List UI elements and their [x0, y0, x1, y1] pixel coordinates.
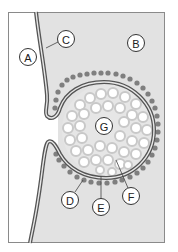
label-a-text: A: [24, 52, 32, 64]
membrane-vesicle-diagram: A B C D E F G: [0, 0, 178, 252]
label-f: F: [123, 188, 140, 205]
label-c-text: C: [62, 34, 70, 46]
label-e: E: [93, 199, 110, 216]
label-e-text: E: [97, 202, 104, 214]
label-c: C: [58, 31, 75, 48]
label-b: B: [128, 35, 145, 52]
label-g-text: G: [100, 121, 109, 133]
label-a: A: [20, 49, 37, 66]
label-g: G: [96, 118, 113, 135]
label-b-text: B: [132, 38, 139, 50]
label-d: D: [62, 192, 79, 209]
label-d-text: D: [66, 195, 74, 207]
label-f-text: F: [128, 191, 135, 203]
